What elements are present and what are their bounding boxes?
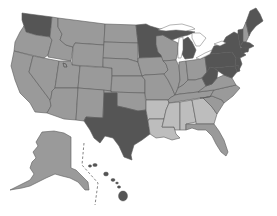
- state-ak[interactable]: [10, 131, 89, 190]
- lake-huron: [192, 33, 206, 46]
- state-wy[interactable]: [72, 43, 104, 67]
- state-az[interactable]: [47, 88, 78, 120]
- state-nm[interactable]: [76, 88, 104, 121]
- state-hi[interactable]: [88, 163, 127, 201]
- state-co[interactable]: [78, 66, 112, 91]
- state-ks[interactable]: [111, 76, 145, 93]
- state-fl[interactable]: [186, 124, 228, 156]
- state-nd[interactable]: [104, 24, 138, 43]
- state-me[interactable]: [246, 8, 263, 36]
- state-ri[interactable]: [246, 48, 249, 52]
- lake-superior: [158, 24, 195, 31]
- state-ma[interactable]: [240, 42, 254, 48]
- us-choropleth-map: [0, 0, 277, 216]
- state-mt[interactable]: [58, 18, 105, 47]
- map-svg: [0, 0, 277, 216]
- inset-divider: [82, 143, 98, 205]
